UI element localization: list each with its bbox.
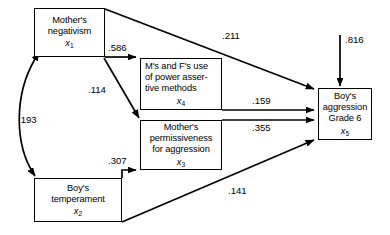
node-x5-label: Boy's aggression Grade 6 (323, 91, 367, 125)
node-x4-power-assertive-methods[interactable]: M's and F's use of power asser- tive met… (140, 58, 222, 110)
node-x3-mothers-permissiveness[interactable]: Mother's permissiveness for aggression x… (140, 120, 222, 170)
node-x1-mothers-negativism[interactable]: Mother's negativism x1 (34, 8, 105, 57)
coefficient-x1-x5: .211 (222, 30, 240, 41)
arrow-x2-to-x3 (122, 170, 136, 178)
coefficient-x2-x3: .307 (108, 155, 127, 166)
node-x4-label: M's and F's use of power asser- tive met… (141, 61, 208, 95)
node-x1-label: Mother's negativism (48, 15, 91, 37)
coefficient-x4-x5: .159 (252, 95, 271, 106)
node-x4-variable: x4 (177, 96, 185, 108)
coefficient-x1-x4: .586 (108, 42, 127, 53)
node-x5-boys-aggression-grade6[interactable]: Boy's aggression Grade 6 x5 (318, 88, 372, 140)
node-x3-label: Mother's permissiveness for aggression (150, 122, 213, 156)
node-x2-variable: x2 (74, 206, 82, 218)
coefficient-x3-x5: .355 (252, 122, 271, 133)
node-x3-variable: x3 (177, 157, 185, 169)
coefficient-x1-x3: .114 (88, 84, 106, 95)
node-x5-variable: x5 (341, 126, 349, 138)
arrow-x1-to-x3 (104, 58, 139, 118)
coefficient-x2-x5: .141 (228, 185, 247, 196)
coefficient-x1-x2: .193 (18, 114, 37, 125)
node-x2-boys-temperament[interactable]: Boy's temperament x2 (34, 178, 122, 222)
node-x2-label: Boy's temperament (51, 183, 105, 205)
node-x1-variable: x1 (65, 38, 73, 50)
path-diagram: Mother's negativism x1 M's and F's use o… (0, 0, 390, 235)
coefficient-disturbance-x5: .816 (345, 34, 364, 45)
